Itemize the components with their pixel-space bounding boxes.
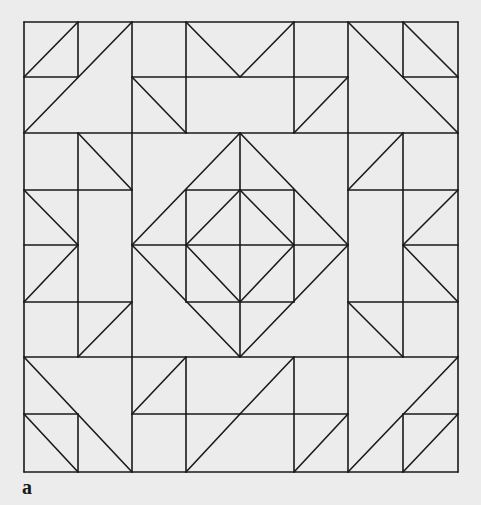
- pattern-line: [186, 22, 240, 77]
- pattern-line: [240, 190, 294, 245]
- pattern-line: [78, 302, 132, 357]
- pattern-line: [294, 414, 348, 472]
- pattern-line: [24, 245, 78, 302]
- pattern-line: [186, 414, 240, 472]
- pattern-line: [24, 414, 78, 472]
- pattern-line: [24, 22, 78, 77]
- pattern-line: [240, 245, 294, 302]
- pattern-line: [348, 302, 403, 357]
- pattern-line: [186, 190, 240, 245]
- figure-label: a: [22, 477, 32, 497]
- pattern-line: [403, 190, 458, 245]
- pattern-line: [132, 77, 186, 133]
- pattern-line: [403, 22, 458, 77]
- pattern-line: [348, 133, 403, 190]
- quilt-pattern-diagram: [0, 0, 481, 505]
- pattern-line: [186, 245, 240, 302]
- pattern-line: [24, 190, 78, 245]
- pattern-line: [78, 133, 132, 190]
- pattern-line: [240, 22, 294, 77]
- pattern-line: [403, 245, 458, 302]
- pattern-line: [294, 77, 348, 133]
- pattern-line: [132, 357, 186, 414]
- pattern-line: [403, 414, 458, 472]
- pattern-line: [240, 357, 294, 414]
